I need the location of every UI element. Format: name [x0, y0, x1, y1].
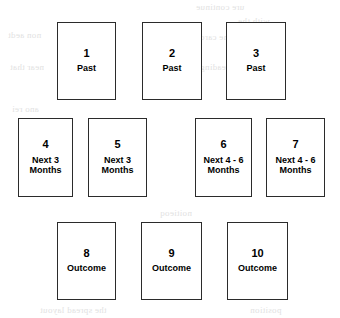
card-number: 8 [83, 248, 89, 260]
scan-bleed-artifact: noitieoq [160, 208, 192, 218]
card-8[interactable]: 8 Outcome [57, 222, 116, 300]
card-label: Outcome [65, 263, 108, 274]
card-number: 3 [253, 48, 259, 60]
scan-bleed-artifact: the spread layout [40, 305, 107, 315]
card-9[interactable]: 9 Outcome [141, 222, 202, 300]
card-number: 5 [114, 139, 120, 151]
scan-bleed-artifact: ano rei [12, 104, 39, 114]
card-3[interactable]: 3 Past [226, 22, 286, 100]
card-number: 2 [169, 48, 175, 60]
card-7[interactable]: 7 Next 4 - 6 Months [266, 118, 325, 197]
card-1[interactable]: 1 Past [57, 22, 116, 100]
card-label: Past [75, 63, 98, 74]
card-4[interactable]: 4 Next 3 Months [18, 118, 73, 197]
card-spread-diagram: ure continue with the non aedt and the c… [0, 0, 340, 318]
card-label: Past [244, 63, 267, 74]
scan-bleed-artifact: non aedt [8, 30, 41, 40]
scan-bleed-artifact: position [250, 305, 281, 315]
card-number: 4 [42, 139, 48, 151]
card-10[interactable]: 10 Outcome [227, 222, 288, 300]
card-5[interactable]: 5 Next 3 Months [88, 118, 147, 197]
scan-bleed-artifact: near that [10, 62, 44, 72]
card-number: 9 [168, 248, 174, 260]
card-label: Next 3 Months [100, 155, 136, 176]
card-label: Next 4 - 6 Months [273, 155, 317, 176]
scan-bleed-artifact: ure continue [196, 2, 244, 12]
card-number: 1 [83, 48, 89, 60]
card-number: 6 [220, 139, 226, 151]
card-number: 10 [251, 248, 263, 260]
scan-bleed-artifact: reading [200, 62, 229, 72]
card-label: Outcome [150, 263, 193, 274]
card-6[interactable]: 6 Next 4 - 6 Months [195, 118, 252, 197]
card-number: 7 [292, 139, 298, 151]
card-2[interactable]: 2 Past [142, 22, 202, 100]
card-label: Outcome [236, 263, 279, 274]
card-label: Next 3 Months [28, 155, 64, 176]
card-label: Past [160, 63, 183, 74]
card-label: Next 4 - 6 Months [201, 155, 245, 176]
